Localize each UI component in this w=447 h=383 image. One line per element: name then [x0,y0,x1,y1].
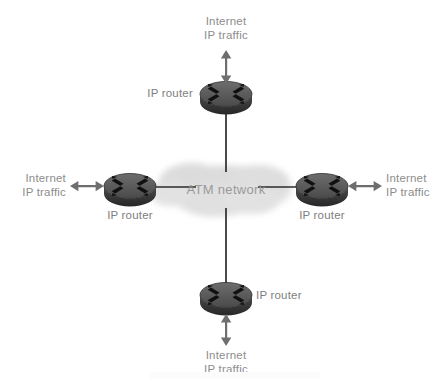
network-diagram-canvas: ATM network Internet IP traffic IP route… [0,0,447,383]
router-east-icon [296,174,348,207]
atm-network-label: ATM network [180,182,272,197]
traffic-arrow-north [221,50,231,84]
traffic-label-north-line1: Internet [176,14,276,28]
router-label-south: IP router [256,288,336,302]
traffic-arrow-south [221,314,231,346]
traffic-label-east-line2: IP traffic [386,185,447,199]
traffic-arrow-east [348,181,382,191]
router-label-west: IP router [88,208,172,222]
router-label-north: IP router [118,86,193,100]
traffic-arrow-west [70,181,104,191]
router-north-icon [200,82,252,115]
router-south-icon [200,283,252,316]
traffic-label-north-line2: IP traffic [176,28,276,42]
traffic-label-west-line1: Internet [0,171,66,185]
router-label-east: IP router [280,208,364,222]
scan-artifact [150,372,320,379]
router-west-icon [104,174,156,207]
traffic-label-south-line1: Internet [176,348,276,362]
traffic-label-east-line1: Internet [386,171,447,185]
traffic-label-west-line2: IP traffic [0,185,66,199]
